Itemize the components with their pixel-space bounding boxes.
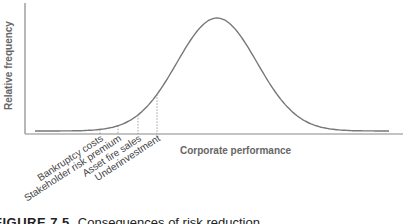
bell-curve-chart: Relative frequency Corporate performance… xyxy=(0,0,405,224)
distribution-curve xyxy=(35,18,389,131)
figure-caption-text: Consequences of risk reduction xyxy=(78,215,260,224)
figure-caption: FIGURE 7.5Consequences of risk reduction xyxy=(0,215,260,224)
x-axis-label: Corporate performance xyxy=(180,145,292,156)
marker-labels: Bankruptcy costsStakeholder risk premium… xyxy=(22,132,162,203)
figure-label: FIGURE 7.5 xyxy=(0,215,70,224)
y-axis-label: Relative frequency xyxy=(3,21,14,110)
